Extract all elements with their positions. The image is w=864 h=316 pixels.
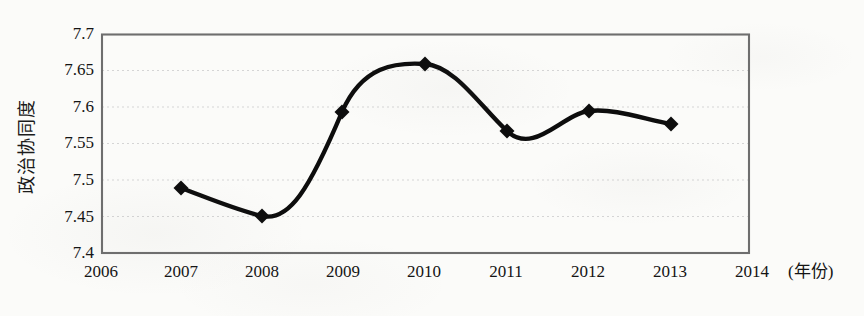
data-point-marker (664, 117, 679, 132)
data-markers (174, 57, 679, 224)
plot-area (0, 0, 864, 316)
data-point-marker (418, 57, 433, 72)
chart-figure: 政治协同度 7.7 7.65 7.6 7.55 7.5 7.45 7.4 200… (0, 0, 864, 316)
data-point-marker (255, 209, 270, 224)
data-series-line (181, 64, 671, 217)
data-point-marker (582, 104, 597, 119)
data-point-marker (174, 181, 189, 196)
